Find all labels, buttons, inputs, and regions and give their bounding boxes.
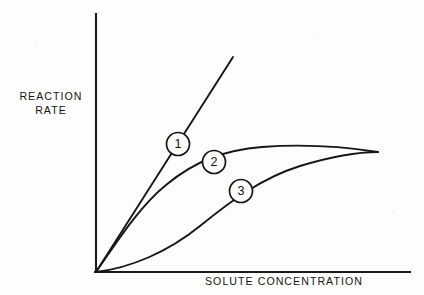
curve-3-marker-label: 3 xyxy=(238,184,245,198)
x-axis-title: SOLUTE CONCENTRATION xyxy=(205,274,363,288)
reaction-rate-figure: 1 2 3 REACTION RATE SOLUTE CONCENTRATION xyxy=(0,0,424,295)
y-axis-title-line2: RATE xyxy=(9,103,93,117)
curve-2-hyperbolic xyxy=(96,146,378,272)
y-axis-title: REACTION RATE xyxy=(9,89,93,117)
curve-2-marker-label: 2 xyxy=(211,155,218,169)
curve-3-marker: 3 xyxy=(230,180,253,203)
curve-1-marker: 1 xyxy=(167,133,190,156)
y-axis-title-line1: REACTION xyxy=(9,89,93,103)
curve-1-marker-label: 1 xyxy=(175,137,182,151)
plot-area: 1 2 3 xyxy=(0,0,424,295)
curve-2-marker: 2 xyxy=(203,151,226,174)
